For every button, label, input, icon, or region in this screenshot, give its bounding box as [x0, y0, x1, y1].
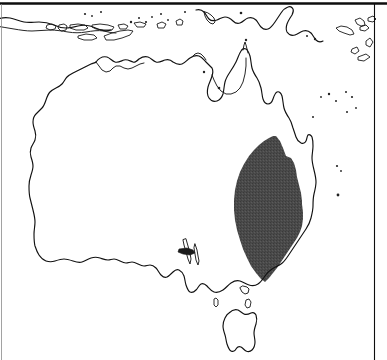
islet-dot-11 — [240, 12, 243, 15]
islet-dot-15 — [306, 35, 308, 37]
islet-dot-9 — [167, 19, 169, 21]
islet-dot-8 — [160, 13, 162, 15]
islet-dot-2 — [91, 15, 93, 17]
islet-dot-17 — [328, 93, 330, 95]
distribution-map-figure: Shaded distribution range Australia — [0, 0, 387, 360]
map-canvas — [0, 0, 387, 360]
islet-dot-20 — [351, 96, 353, 98]
islet-dot-26 — [312, 116, 314, 118]
islet-dot-13 — [203, 71, 205, 73]
islet-dot-14 — [218, 87, 221, 90]
islet-dot-16 — [314, 38, 316, 40]
islet-dot-27 — [320, 96, 322, 98]
islet-dot-22 — [355, 107, 357, 109]
islet-dot-3 — [100, 11, 102, 13]
islet-dot-18 — [335, 100, 337, 102]
islet-dot-24 — [340, 170, 342, 172]
islet-dot-1 — [84, 13, 86, 15]
islet-dot-10 — [184, 11, 186, 13]
islet-dot-4 — [130, 21, 132, 23]
islet-dot-6 — [145, 21, 147, 23]
islet-dot-21 — [346, 111, 348, 113]
islet-dot-19 — [345, 91, 347, 93]
islet-dot-23 — [336, 165, 338, 167]
islet-dot-7 — [151, 16, 153, 18]
islet-dot-12 — [245, 39, 247, 41]
islet-dot-5 — [138, 17, 140, 19]
islet-dot-25 — [337, 194, 340, 197]
map-background — [0, 0, 387, 360]
